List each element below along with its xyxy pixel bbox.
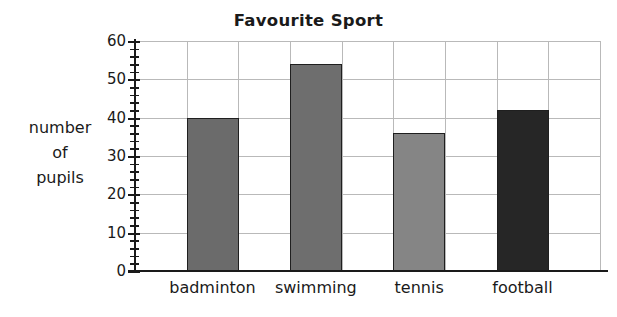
x-tick-label-badminton: badminton bbox=[153, 278, 273, 297]
y-tick-minor bbox=[130, 110, 139, 112]
y-tick-minor bbox=[130, 263, 139, 265]
y-tick-minor bbox=[130, 72, 139, 74]
y-tick-major bbox=[128, 233, 140, 235]
y-tick-label: 40 bbox=[88, 109, 126, 127]
x-axis-line bbox=[128, 270, 608, 272]
gridline-vertical bbox=[342, 41, 343, 271]
y-tick-minor bbox=[130, 240, 139, 242]
y-tick-minor bbox=[130, 187, 139, 189]
y-tick-minor bbox=[130, 95, 139, 97]
y-tick-major bbox=[128, 194, 140, 196]
y-tick-minor bbox=[130, 164, 139, 166]
y-tick-minor bbox=[130, 133, 139, 135]
y-tick-major bbox=[128, 118, 140, 120]
y-tick-label: 30 bbox=[88, 147, 126, 165]
y-tick-major bbox=[128, 271, 140, 273]
bar-tennis bbox=[393, 133, 445, 271]
y-tick-minor bbox=[130, 87, 139, 89]
y-tick-minor bbox=[130, 217, 139, 219]
y-tick-minor bbox=[130, 248, 139, 250]
gridline-vertical bbox=[600, 41, 601, 271]
gridline-horizontal bbox=[135, 79, 600, 80]
y-tick-minor bbox=[130, 64, 139, 66]
y-tick-label: 0 bbox=[88, 262, 126, 280]
y-tick-minor bbox=[130, 171, 139, 173]
y-tick-minor bbox=[130, 202, 139, 204]
y-tick-minor bbox=[130, 102, 139, 104]
x-tick-label-swimming: swimming bbox=[256, 278, 376, 297]
y-tick-label: 10 bbox=[88, 224, 126, 242]
gridline-vertical bbox=[445, 41, 446, 271]
y-tick-minor bbox=[130, 179, 139, 181]
y-tick-minor bbox=[130, 225, 139, 227]
bar-badminton bbox=[187, 118, 239, 271]
y-tick-minor bbox=[130, 210, 139, 212]
y-tick-label: 50 bbox=[88, 70, 126, 88]
y-tick-label: 20 bbox=[88, 185, 126, 203]
plot-area bbox=[135, 41, 600, 271]
gridline-horizontal bbox=[135, 41, 600, 42]
bar-swimming bbox=[290, 64, 342, 271]
bar-chart: Favourite Sport number of pupils 0102030… bbox=[0, 0, 617, 317]
y-tick-minor bbox=[130, 125, 139, 127]
y-tick-minor bbox=[130, 141, 139, 143]
bar-football bbox=[497, 110, 549, 271]
y-tick-major bbox=[128, 79, 140, 81]
y-tick-major bbox=[128, 156, 140, 158]
x-tick-label-tennis: tennis bbox=[359, 278, 479, 297]
y-tick-label: 60 bbox=[88, 32, 126, 50]
y-tick-minor bbox=[130, 49, 139, 51]
y-tick-minor bbox=[130, 148, 139, 150]
y-tick-minor bbox=[130, 256, 139, 258]
y-axis-tick-labels: 0102030405060 bbox=[86, 0, 126, 317]
x-tick-label-football: football bbox=[463, 278, 583, 297]
y-tick-minor bbox=[130, 56, 139, 58]
y-tick-major bbox=[128, 41, 140, 43]
